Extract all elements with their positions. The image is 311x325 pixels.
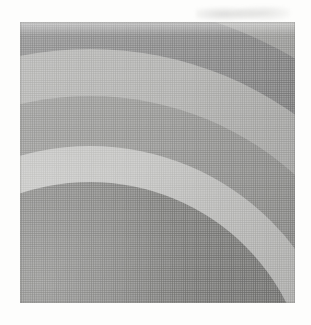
grayscale-photo-plate	[20, 22, 295, 303]
paper-smudge	[196, 6, 290, 22]
plate-image-layer	[20, 22, 295, 303]
page-background	[0, 0, 311, 325]
